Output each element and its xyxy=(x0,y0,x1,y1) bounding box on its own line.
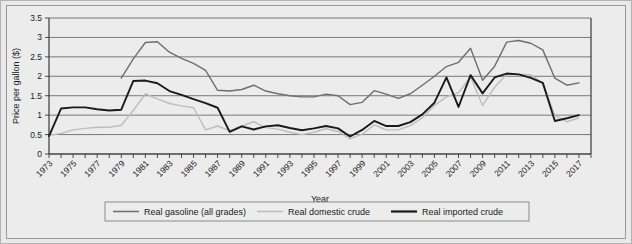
y-tick-label: 3.5 xyxy=(30,13,42,23)
x-tick-label: 2001 xyxy=(371,158,392,179)
series-line xyxy=(121,41,579,105)
data-series xyxy=(49,41,579,139)
x-tick-label: 1981 xyxy=(130,158,151,179)
x-tick-label: 2017 xyxy=(564,158,585,179)
y-axis-title: Price per gallon ($) xyxy=(11,48,21,124)
x-axis-tick-labels: 1973197519771979198119831985198719891991… xyxy=(34,158,585,179)
x-tick-label: 2011 xyxy=(492,158,512,178)
y-tick-label: 1.5 xyxy=(30,91,42,101)
x-tick-label: 1997 xyxy=(323,158,344,179)
x-tick-label: 2015 xyxy=(540,158,561,179)
y-tick-label: 1 xyxy=(37,110,42,120)
chart-legend: Real gasoline (all grades)Real domestic … xyxy=(105,202,529,221)
x-tick-label: 2009 xyxy=(468,158,489,179)
chart-page: 00.511.522.533.5 19731975197719791981198… xyxy=(0,0,632,244)
x-tick-label: 1993 xyxy=(275,158,296,179)
x-tick-label: 1979 xyxy=(106,158,127,179)
y-tick-label: 0 xyxy=(37,149,42,159)
y-axis-tick-labels: 00.511.522.533.5 xyxy=(30,13,42,159)
x-tick-label: 1995 xyxy=(299,158,320,179)
x-tick-label: 2003 xyxy=(395,158,416,179)
legend-label: Real imported crude xyxy=(422,207,503,217)
x-tick-label: 1991 xyxy=(251,158,272,179)
x-tick-label: 1999 xyxy=(347,158,368,179)
legend-label: Real domestic crude xyxy=(288,207,370,217)
chart-frame: 00.511.522.533.5 19731975197719791981198… xyxy=(6,5,626,239)
y-tick-label: 2 xyxy=(37,71,42,81)
x-tick-label: 2013 xyxy=(516,158,537,179)
x-tick-label: 1973 xyxy=(34,158,55,179)
y-tick-label: 3 xyxy=(37,32,42,42)
x-tick-label: 1977 xyxy=(82,158,103,179)
x-tick-label: 1985 xyxy=(178,158,199,179)
legend-label: Real gasoline (all grades) xyxy=(144,207,246,217)
x-tick-label: 2007 xyxy=(443,158,464,179)
x-tick-label: 1983 xyxy=(154,158,175,179)
x-tick-label: 2005 xyxy=(419,158,440,179)
x-axis-ticks xyxy=(49,154,591,158)
x-tick-label: 1975 xyxy=(58,158,79,179)
y-axis-ticks xyxy=(45,18,49,154)
line-chart: 00.511.522.533.5 19731975197719791981198… xyxy=(7,6,625,238)
y-tick-label: 2.5 xyxy=(30,52,42,62)
x-tick-label: 1989 xyxy=(227,158,248,179)
x-tick-label: 1987 xyxy=(203,158,224,179)
y-tick-label: 0.5 xyxy=(30,130,42,140)
